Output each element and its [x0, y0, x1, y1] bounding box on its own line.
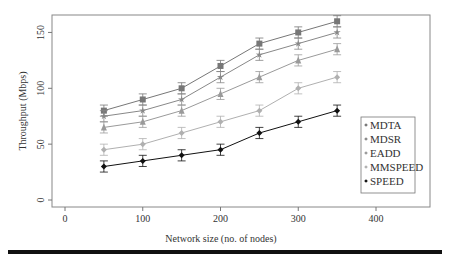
x-axis-label: Network size (no. of nodes) — [165, 233, 276, 245]
throughput-chart: 050100150 0100200300400 Throughput (Mbps… — [0, 0, 452, 258]
legend: MDTAMDSREADDMMSPEEDSPEED — [361, 117, 423, 193]
legend-item-speed: SPEED — [370, 175, 404, 187]
x-tick-label: 200 — [213, 213, 228, 224]
series-speed — [100, 105, 341, 172]
series-mdta — [100, 16, 341, 117]
x-tick-label: 0 — [63, 213, 68, 224]
legend-item-mdsr: MDSR — [370, 133, 402, 145]
legend-item-eadd: EADD — [370, 147, 401, 159]
y-tick-label: 0 — [35, 198, 46, 203]
legend-item-mdta: MDTA — [370, 119, 402, 131]
series-mmspeed — [100, 72, 341, 156]
legend-item-mmspeed: MMSPEED — [370, 161, 423, 173]
series-group — [100, 16, 341, 172]
series-mdsr — [100, 27, 341, 122]
y-tick-label: 100 — [35, 81, 46, 96]
y-tick-label: 150 — [35, 25, 46, 40]
x-tick-label: 100 — [135, 213, 150, 224]
x-tick-label: 400 — [369, 213, 384, 224]
x-tick-label: 300 — [291, 213, 306, 224]
bottom-rule — [8, 250, 442, 254]
y-axis: 050100150 — [35, 25, 52, 203]
x-axis: 0100200300400 — [63, 207, 384, 224]
y-axis-label: Throughput (Mbps) — [17, 71, 29, 150]
y-tick-label: 50 — [35, 139, 46, 149]
